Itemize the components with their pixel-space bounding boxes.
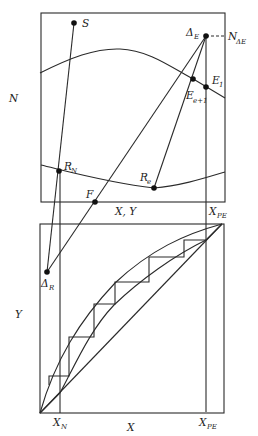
point-f (92, 199, 98, 205)
label-xpe-top: X (208, 205, 217, 217)
label-delta-e-sub: E (193, 33, 199, 41)
line-delta-e-re (154, 36, 206, 188)
label-y-axis: Y (15, 308, 23, 320)
label-s: S (82, 17, 89, 29)
label-xy-axis: X, Y (114, 205, 137, 217)
label-f: F (85, 188, 94, 200)
label-xn: X (52, 416, 61, 428)
stage-steps (49, 240, 206, 385)
line-delta-e-delta-r (47, 36, 206, 272)
label-e-e-plus-1-sub: e+1 (193, 97, 207, 105)
label-delta-e: Δ (185, 26, 194, 38)
label-xpe-bottom-sub: PE (206, 423, 217, 431)
diagonal-line (40, 224, 222, 413)
label-rn-sub: N (70, 167, 78, 175)
label-e1-sub: 1 (219, 81, 223, 89)
top-panel-frame (41, 13, 225, 202)
point-e1 (203, 84, 209, 90)
label-n-axis: N (8, 92, 19, 104)
point-re (151, 185, 157, 191)
label-xpe-bottom: X (198, 416, 207, 428)
label-delta-r-sub: R (48, 284, 55, 292)
point-delta-e (203, 33, 209, 39)
point-delta-r (44, 269, 50, 275)
label-re-sub: e (147, 178, 151, 186)
point-e-e-plus-1 (190, 76, 196, 82)
label-xpe-top-sub: PE (216, 212, 227, 220)
label-xn-sub: N (60, 423, 68, 431)
label-x-axis: X (126, 421, 135, 433)
label-n-delta-e-sub: ΔE (235, 38, 246, 46)
point-s (71, 20, 77, 26)
point-rn (56, 168, 62, 174)
label-delta-r: Δ (40, 277, 49, 289)
extract-curve (40, 49, 225, 98)
extraction-diagram: S Δ E N ΔE E 1 E e+1 N R N R e F X, Y X … (0, 0, 258, 436)
